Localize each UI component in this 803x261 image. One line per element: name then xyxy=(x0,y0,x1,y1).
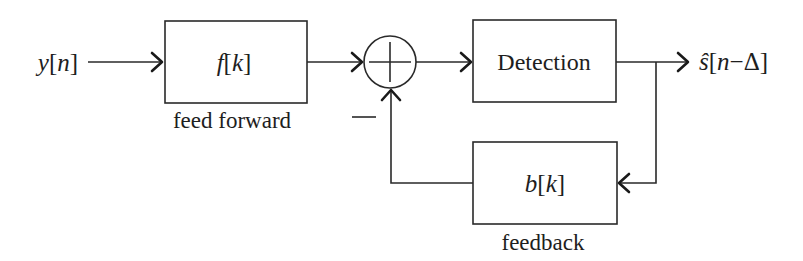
feedback-block-label: b[k] xyxy=(525,171,565,196)
detection-label: Detection xyxy=(497,50,590,74)
feedback-to-summer-edge xyxy=(391,90,473,183)
diagram-lines xyxy=(0,0,803,261)
dfe-diagram: y[n] f[k] feed forward Detection ŝ[n−Δ] … xyxy=(0,0,803,261)
branch-to-feedback-edge xyxy=(619,62,656,183)
input-label: y[n] xyxy=(38,50,78,75)
feedback-caption: feedback xyxy=(502,231,585,254)
output-label: ŝ[n−Δ] xyxy=(699,49,768,74)
feedforward-label: f[k] xyxy=(217,50,252,75)
feedforward-caption: feed forward xyxy=(173,109,291,132)
